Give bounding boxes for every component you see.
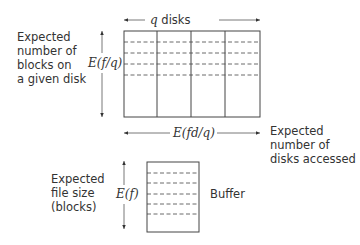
label-line: number of	[270, 138, 331, 152]
label-line: Expected	[270, 124, 324, 138]
label-line: Expected	[17, 30, 71, 44]
ef-arrow: E(f)	[115, 161, 139, 229]
label-line: (blocks)	[51, 200, 96, 214]
blocks-per-disk-label: Expected number of blocks on a given dis…	[17, 30, 87, 86]
buffer-label: Buffer	[210, 187, 245, 201]
label-line: blocks on	[17, 58, 72, 72]
label-line: disks accessed	[270, 152, 356, 166]
disk-grid-border	[124, 31, 260, 117]
q-disks-label: q disks	[150, 13, 190, 27]
label-line: a given disk	[17, 72, 87, 86]
q-disks-arrow: q disks	[124, 13, 260, 27]
diagram: q disks Expected number of blocks on a g…	[0, 0, 360, 245]
efq-label: E(f/q)	[87, 56, 123, 70]
label-line: Expected	[51, 172, 105, 186]
disks-accessed-label: Expected number of disks accessed	[270, 124, 356, 166]
disk-grid	[124, 31, 260, 117]
efq-arrow: E(f/q)	[87, 31, 123, 117]
label-line: file size	[51, 186, 94, 200]
efdq-label: E(fd/q)	[172, 126, 215, 140]
buffer-box	[147, 162, 199, 232]
efdq-arrow: E(fd/q)	[124, 126, 260, 140]
file-size-label: Expected file size (blocks)	[51, 172, 105, 214]
ef-label: E(f)	[115, 187, 139, 201]
buffer-border	[147, 162, 199, 232]
label-line: number of	[17, 44, 78, 58]
